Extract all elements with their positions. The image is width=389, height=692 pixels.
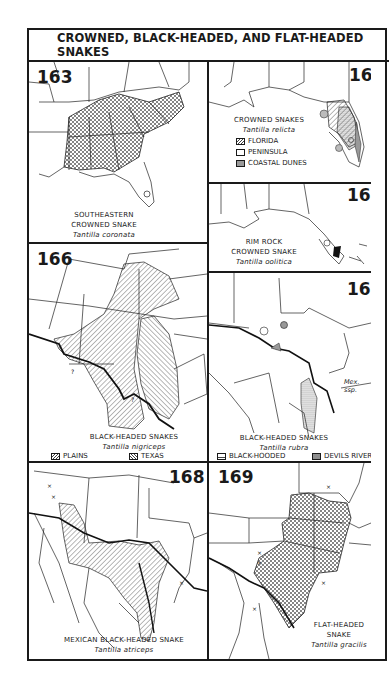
svg-text:?: ? [71, 368, 74, 375]
legend-texas: TEXAS [129, 452, 164, 460]
legend-florida: FLORIDA [236, 137, 278, 145]
map-167-panel: 167 Mex. ssp. BLACK-HEADED SNAKES Tantil… [209, 273, 371, 461]
svg-text:×: × [257, 549, 262, 556]
southwest-mexico-map: × × × [29, 463, 207, 659]
map-caption: FLAT-HEADED SNAKE Tantilla gracilis [305, 620, 371, 650]
legend-coastal-dunes: COASTAL DUNES [236, 159, 307, 167]
common-name: BLACK-HEADED SNAKES [59, 432, 207, 442]
map-number: 163 [37, 69, 73, 86]
hatch-swatch-icon [236, 138, 245, 145]
common-name: BLACK-HEADED SNAKES [219, 433, 349, 443]
common-name: SOUTHEASTERN [49, 210, 159, 220]
scientific-name: Tantilla coronata [49, 230, 159, 240]
common-name: FLAT-HEADED [305, 620, 371, 630]
map-163-panel: 163 SOUTHEASTERN CROWNED SNAKE Tantilla … [29, 62, 207, 242]
scientific-name: Tantilla gracilis [305, 640, 371, 650]
map-165-panel: 165 RIM ROCK CROWNED SNAKE Tantilla ooli… [209, 184, 371, 271]
legend-peninsula: PENINSULA [236, 148, 288, 156]
subspecies-annotation: Mex. ssp. [344, 378, 371, 394]
map-caption: SOUTHEASTERN CROWNED SNAKE Tantilla coro… [49, 210, 159, 240]
common-name: RIM ROCK [219, 237, 309, 247]
scientific-name: Tantilla nigriceps [59, 442, 207, 452]
hatch-swatch-icon [51, 453, 60, 460]
map-number: 165 [347, 187, 371, 204]
common-name: CROWNED SNAKE [49, 220, 159, 230]
south-central-us-map: ? ? [29, 244, 207, 461]
page-title: CROWNED, BLACK-HEADED, AND FLAT-HEADED S… [29, 30, 389, 62]
map-caption: BLACK-HEADED SNAKES Tantilla nigriceps [59, 432, 207, 452]
scientific-name: Tantilla oolitica [219, 257, 309, 267]
stipple-swatch-icon [236, 149, 245, 156]
common-name: SNAKE [305, 630, 371, 640]
map-number: 169 [218, 469, 254, 486]
map-caption: MEXICAN BLACK-HEADED SNAKE Tantilla atri… [39, 635, 207, 655]
map-number: 167 [347, 281, 371, 298]
map-number: 166 [37, 251, 73, 268]
map-caption: RIM ROCK CROWNED SNAKE Tantilla oolitica [219, 237, 309, 267]
scientific-name: Tantilla atriceps [39, 645, 207, 655]
svg-text:?: ? [131, 396, 134, 403]
map-169-panel: × × × × × 169 FLAT-HEADED SNAKE Tantilla… [209, 463, 371, 659]
solid-swatch-icon [236, 160, 245, 167]
map-164-panel: 164 CROWNED SNAKES Tantilla relicta FLOR… [209, 62, 371, 182]
svg-text:×: × [252, 605, 257, 612]
common-name: CROWNED SNAKES [229, 115, 309, 125]
svg-text:×: × [326, 483, 331, 490]
map-number: 168 [169, 469, 205, 486]
legend-black-hooded: BLACK-HOODED [217, 452, 285, 460]
map-caption: BLACK-HEADED SNAKES Tantilla rubra [219, 433, 349, 453]
scientific-name: Tantilla relicta [229, 125, 309, 135]
legend-devils-river: DEVILS RIVER [312, 452, 371, 460]
common-name: MEXICAN BLACK-HEADED SNAKE [39, 635, 207, 645]
legend-plains: PLAINS [51, 452, 88, 460]
map-caption: CROWNED SNAKES Tantilla relicta [229, 115, 309, 135]
common-name: CROWNED SNAKE [219, 247, 309, 257]
svg-text:×: × [321, 579, 326, 586]
map-166-panel: ? ? 166 BLACK-HEADED SNAKES Tantilla nig… [29, 244, 207, 461]
svg-text:×: × [179, 579, 184, 586]
solid-swatch-icon [312, 453, 321, 460]
grid-swatch-icon [217, 453, 226, 460]
svg-text:×: × [47, 482, 52, 489]
hatch-swatch-icon [129, 453, 138, 460]
svg-text:×: × [257, 559, 262, 566]
map-168-panel: × × × 168 MEXICAN BLACK-HEADED SNAKE Tan… [29, 463, 207, 659]
map-number: 164 [349, 67, 371, 84]
svg-text:×: × [51, 493, 56, 500]
